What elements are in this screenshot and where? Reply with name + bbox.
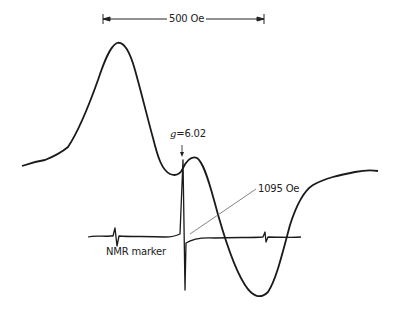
marker-field-label: 1095 Oe	[258, 183, 299, 194]
nmr-marker-label: NMR marker	[106, 246, 166, 257]
field-leader-line	[190, 189, 256, 234]
nmr-baseline	[88, 160, 301, 290]
g-value-arrow	[180, 145, 184, 157]
spectrum-plot	[0, 0, 395, 313]
g-value: =6.02	[176, 128, 206, 139]
scale-bar-label: 500 Oe	[167, 13, 206, 24]
epr-trace	[22, 43, 378, 296]
g-value-label: g=6.02	[170, 128, 206, 139]
epr-spectrum-figure: 500 Oe g=6.02 1095 Oe NMR marker	[0, 0, 395, 313]
